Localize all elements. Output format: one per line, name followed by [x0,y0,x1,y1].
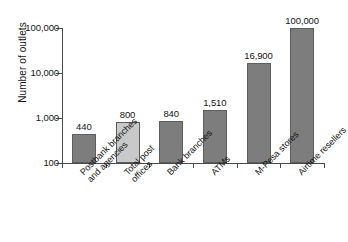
bar-value-label: 100,000 [285,15,319,26]
x-tick-mark [237,163,238,168]
y-axis-title: Number of outlets [17,3,28,123]
x-tick-mark [193,163,194,168]
y-tick-label: 1,000 [36,112,59,123]
y-axis-line [62,28,63,164]
bar-value-label: 1,510 [203,97,226,108]
y-tick-label: 100 [43,157,59,168]
bar-value-label: 16,900 [244,50,272,61]
x-tick-mark [280,163,281,168]
bar-value-label: 840 [163,108,179,119]
bar [247,63,271,163]
x-tick-mark [324,163,325,168]
y-tick-label: 10,000 [31,67,59,78]
bar-value-label: 440 [76,121,92,132]
x-tick-mark [62,163,63,168]
y-tick-label: 100,000 [25,22,59,33]
